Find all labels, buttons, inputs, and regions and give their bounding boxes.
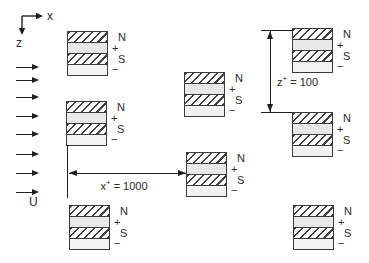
actuator-tile-left-middle: N + S − [66, 101, 128, 146]
flow-velocity-label: U [29, 196, 38, 209]
negative-electrode-label: − [112, 64, 118, 75]
north-pole-label: N [118, 32, 126, 43]
south-pole-label: S [343, 135, 350, 146]
negative-electrode-label: − [111, 134, 117, 145]
flow-arrow-icon [16, 67, 32, 68]
actuator-tile-right-top: N + S − [292, 28, 354, 73]
flow-arrow-icon [16, 134, 32, 135]
negative-electrode-label: − [338, 238, 344, 249]
north-pole-label: N [344, 206, 352, 217]
north-pole-label: N [237, 153, 245, 164]
z-spacing-dimension-arrow [270, 31, 271, 112]
electrode-negative-strip [184, 105, 225, 117]
flow-arrow-icon [16, 80, 32, 81]
flow-arrow-icon [16, 173, 32, 174]
negative-electrode-label: − [337, 61, 343, 72]
actuator-tile-center-lower: N + S − [186, 152, 248, 197]
negative-electrode-label: − [114, 238, 120, 249]
actuator-tile-right-middle: N + S − [292, 112, 354, 157]
south-pole-label: S [117, 124, 124, 135]
actuator-tile-center-upper: N + S − [184, 72, 246, 117]
south-pole-label: S [120, 228, 127, 239]
north-pole-label: N [343, 113, 351, 124]
negative-electrode-label: − [231, 185, 237, 196]
electrode-negative-strip [293, 238, 334, 250]
actuator-tile-left-top: N + S − [67, 31, 129, 76]
actuator-tile-right-bottom: N + S − [293, 205, 355, 250]
magnet-electrode-array-diagram: x z U N + S − N + S − N + S − [0, 0, 369, 263]
x-dimension-extension-line [67, 145, 68, 198]
south-pole-label: S [118, 54, 125, 65]
south-pole-label: S [343, 51, 350, 62]
electrode-negative-strip [67, 64, 108, 76]
north-pole-label: N [120, 206, 128, 217]
electrode-negative-strip [292, 145, 333, 157]
z-dimension-top-tick [261, 30, 292, 31]
south-pole-label: S [344, 228, 351, 239]
z-axis-label: z [16, 37, 22, 49]
electrode-negative-strip [186, 185, 227, 197]
x-spacing-dimension-label: x+ = 1000 [86, 180, 162, 192]
south-pole-label: S [237, 175, 244, 186]
south-pole-label: S [235, 95, 242, 106]
flow-arrow-icon [16, 97, 32, 98]
north-pole-label: N [117, 102, 125, 113]
north-pole-label: N [343, 29, 351, 40]
z-spacing-dimension-label: z+ = 100 [277, 76, 318, 88]
flow-arrow-icon [16, 154, 32, 155]
z-dimension-bottom-tick [261, 112, 292, 113]
flow-arrow-icon [16, 116, 32, 117]
x-axis-label: x [47, 10, 53, 22]
x-spacing-dimension-arrow [69, 173, 186, 174]
flow-arrow-icon [16, 192, 32, 193]
electrode-negative-strip [69, 238, 110, 250]
electrode-negative-strip [292, 61, 333, 73]
north-pole-label: N [235, 73, 243, 84]
actuator-tile-left-bottom: N + S − [69, 205, 131, 250]
negative-electrode-label: − [229, 105, 235, 116]
electrode-negative-strip [66, 134, 107, 146]
negative-electrode-label: − [337, 145, 343, 156]
